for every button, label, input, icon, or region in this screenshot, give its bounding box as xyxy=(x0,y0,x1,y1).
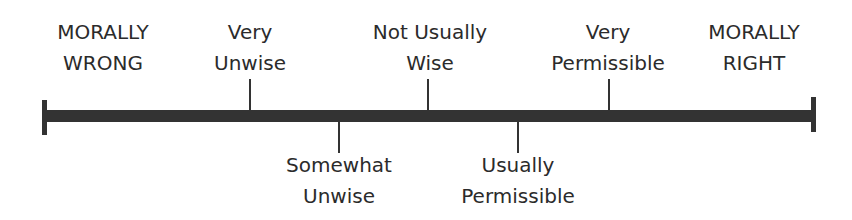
tick-not-usually-wise xyxy=(427,79,429,111)
tick-somewhat-unwise xyxy=(338,121,340,153)
label-not-usually-wise: Not Usually Wise xyxy=(330,17,530,79)
tick-very-unwise xyxy=(249,79,251,111)
tick-usually-permissible xyxy=(517,121,519,153)
label-usually-permissible: Usually Permissible xyxy=(418,150,618,212)
scale-line xyxy=(44,110,815,122)
right-end-cap xyxy=(811,97,816,132)
label-very-unwise: Very Unwise xyxy=(150,17,350,79)
label-morally-right: MORALLY RIGHT xyxy=(654,17,852,79)
tick-very-permissible xyxy=(608,79,610,111)
left-end-cap xyxy=(42,100,47,135)
label-somewhat-unwise: Somewhat Unwise xyxy=(239,150,439,212)
